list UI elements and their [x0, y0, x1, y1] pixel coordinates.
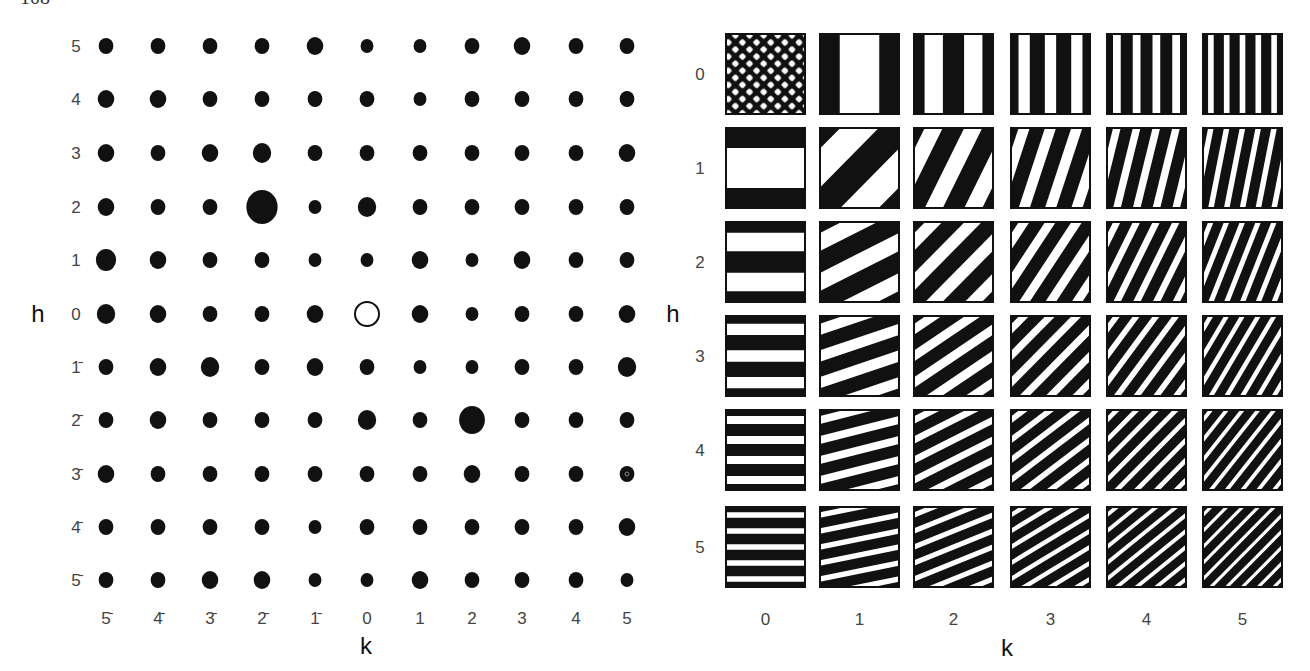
- pattern-cell-h2-k1: [820, 222, 899, 302]
- h-axis-label: h: [666, 300, 679, 327]
- lattice-dot: [151, 145, 166, 161]
- lattice-dot: [466, 307, 479, 321]
- lattice-dot: [413, 466, 428, 482]
- lattice-dot: [151, 519, 166, 535]
- lattice-dot: [308, 412, 323, 428]
- k-tick-label: 2: [949, 610, 958, 629]
- pattern-cell-h1-k1: [820, 128, 899, 208]
- lattice-dot: [414, 360, 427, 374]
- lattice-dot: [255, 359, 270, 375]
- lattice-dot: [413, 412, 428, 428]
- lattice-dot: [203, 519, 218, 535]
- lattice-dot: [358, 410, 376, 430]
- pattern-cell-h5-k1: [820, 507, 899, 587]
- lattice-dot: [309, 200, 322, 214]
- k-tick-label: 1: [855, 610, 864, 629]
- pattern-cell-h2-k5: [1203, 222, 1282, 302]
- lattice-dot: [569, 38, 584, 54]
- lattice-dot: [515, 412, 530, 428]
- k-tick-label: 4: [571, 609, 580, 628]
- lattice-dot: [464, 465, 481, 483]
- lattice-dot: [246, 190, 277, 224]
- pattern-cell-h0-k3: [1011, 34, 1090, 114]
- lattice-dot: [308, 145, 323, 161]
- h-tick-label: 5̄: [71, 571, 83, 590]
- left-panel-lattice: 5432101̄2̄3̄4̄5̄5̄4̄3̄2̄1̄012345hk: [31, 37, 636, 659]
- lattice-dot: [203, 306, 218, 322]
- lattice-dot: [98, 144, 115, 162]
- h-tick-label: 2̄: [71, 411, 83, 430]
- lattice-dot: [309, 520, 322, 534]
- lattice-dot: [97, 304, 115, 324]
- lattice-dot: [255, 466, 270, 482]
- lattice-dot: [253, 143, 271, 163]
- pattern-cell-h2-k2: [914, 222, 993, 302]
- k-tick-label: 2̄: [257, 609, 269, 628]
- lattice-dot: [569, 252, 584, 268]
- h-tick-label: 3: [71, 144, 80, 163]
- lattice-dot: [150, 305, 167, 323]
- lattice-dot: [465, 519, 480, 535]
- pattern-cell-h0-k4: [1107, 34, 1186, 114]
- k-tick-label: 1: [415, 609, 424, 628]
- lattice-dot: [619, 305, 636, 323]
- lattice-dot: [412, 571, 429, 589]
- lattice-dot: [361, 253, 374, 267]
- pattern-cell-h5-k4: [1107, 507, 1186, 587]
- pattern-cell-h1-k4: [1107, 128, 1186, 208]
- k-tick-label: 3: [1046, 610, 1055, 629]
- pattern-cell-h1-k5: [1203, 128, 1282, 208]
- pattern-cell-h4-k2: [914, 410, 993, 490]
- lattice-dot: [620, 412, 635, 428]
- lattice-dot: [98, 90, 115, 108]
- lattice-dot: [201, 357, 219, 377]
- lattice-dot: [203, 412, 218, 428]
- pattern-cell-h2-k3: [1011, 222, 1090, 302]
- lattice-dot: [569, 519, 584, 535]
- k-tick-label: 5: [1238, 610, 1247, 629]
- pattern-cell-h5-k3: [1011, 507, 1090, 587]
- lattice-dot: [203, 38, 218, 54]
- lattice-dot: [412, 305, 429, 323]
- pattern-cell-h3-k1: [820, 316, 899, 396]
- pattern-cell-h3-k5: [1203, 316, 1282, 396]
- lattice-dot: [255, 38, 270, 54]
- pattern-cell-h4-k4: [1107, 410, 1186, 490]
- lattice-dot: [621, 573, 634, 587]
- lattice-dot: [413, 199, 428, 215]
- lattice-dot: [459, 406, 485, 434]
- lattice-dot: [515, 145, 530, 161]
- h-tick-label: 1: [71, 251, 80, 270]
- lattice-dot: [569, 412, 584, 428]
- lattice-dot: [360, 91, 375, 107]
- lattice-dot: [569, 306, 584, 322]
- lattice-dot: [255, 252, 270, 268]
- pattern-cell-h0-k1: [820, 34, 899, 114]
- lattice-dot: [361, 39, 374, 53]
- pattern-cell-h0-k2: [914, 34, 993, 114]
- lattice-dot: [202, 571, 219, 589]
- k-tick-label: 4: [1142, 610, 1151, 629]
- lattice-dot: [619, 144, 636, 162]
- k-tick-label: 3: [517, 609, 526, 628]
- lattice-dot: [569, 91, 584, 107]
- lattice-dot: [203, 252, 218, 268]
- k-tick-label: 5: [622, 609, 631, 628]
- pattern-cell-h1-k2: [914, 128, 993, 208]
- lattice-dot: [515, 199, 530, 215]
- k-tick-label: 3̄: [205, 609, 217, 628]
- lattice-dot: [309, 253, 322, 267]
- lattice-dot: [203, 91, 218, 107]
- h-tick-label: 3: [695, 347, 704, 366]
- lattice-dot: [360, 359, 375, 375]
- lattice-dot: [308, 466, 323, 482]
- pattern-cell-h5-k5: [1203, 507, 1282, 587]
- pattern-cell-h4-k5: [1203, 410, 1282, 490]
- lattice-dot: [99, 519, 114, 535]
- k-tick-label: 0: [761, 610, 770, 629]
- lattice-dot: [620, 38, 635, 54]
- h-tick-label: 5: [695, 538, 704, 557]
- lattice-dot: [515, 359, 530, 375]
- h-tick-label: 2: [695, 253, 704, 272]
- lattice-dot: [465, 38, 480, 54]
